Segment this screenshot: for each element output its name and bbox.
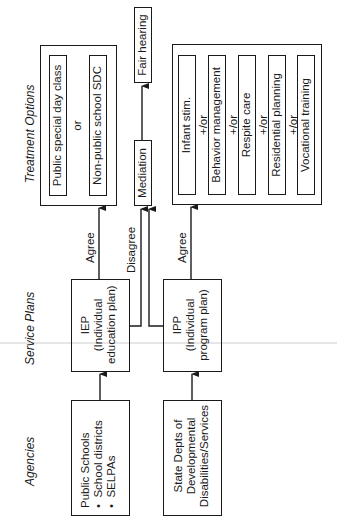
bullet-selpas: • SELPAs <box>105 420 118 508</box>
label-disagree: Disagree <box>125 227 138 273</box>
public-schools-title: Public Schools <box>79 420 92 508</box>
iep-line: (Individual <box>92 286 105 364</box>
school-option-text: Non-public school SDC <box>91 57 104 194</box>
dds-option-text: Residential planning <box>270 57 283 193</box>
iep-line: education plan) <box>105 286 118 364</box>
state-depts-line: Developmental <box>185 401 198 511</box>
dds-option-text: Respite care <box>240 57 253 193</box>
bullet-school-districts: • School districts <box>92 420 105 508</box>
label-ipp-agree: Agree <box>176 232 189 263</box>
ipp-line: (Individual <box>184 286 197 364</box>
ipp-line: program plan) <box>197 286 210 364</box>
state-depts-text: State Depts of Developmental Disabilitie… <box>172 401 211 511</box>
school-option-text: Public special day class <box>51 57 64 194</box>
ipp-text: IPP (Individual program plan) <box>171 286 210 364</box>
dds-option-text: Behavior management <box>210 57 223 193</box>
label-iep-agree: Agree <box>84 232 97 263</box>
heading-agencies: Agencies <box>23 437 37 486</box>
or-separator: or <box>71 57 84 194</box>
public-schools-text: Public Schools • School districts • SELP… <box>79 420 118 508</box>
fair-hearing-text: Fair hearing <box>136 9 149 81</box>
mediation-text: Mediation <box>136 142 149 204</box>
dds-option-text: Infant stim. <box>180 57 193 193</box>
ipp-line: IPP <box>171 286 184 364</box>
state-depts-line: Disabilities/Services <box>198 401 211 511</box>
iep-text: IEP (Individual education plan) <box>79 286 118 364</box>
iep-line: IEP <box>79 286 92 364</box>
state-depts-line: State Depts of <box>172 401 185 511</box>
heading-treatment-options: Treatment Options <box>23 85 37 183</box>
dds-option-text: Vocational training <box>299 57 312 193</box>
heading-service-plans: Service Plans <box>23 292 37 365</box>
